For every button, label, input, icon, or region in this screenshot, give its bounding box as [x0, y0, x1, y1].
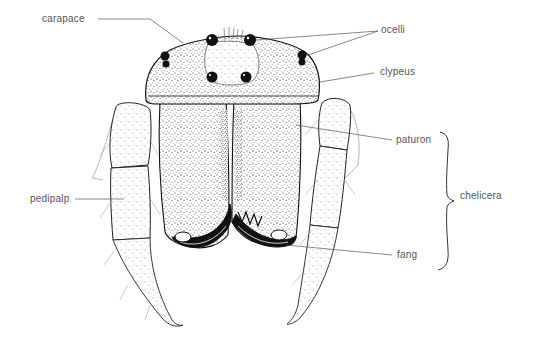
label-ocelli: ocelli [381, 24, 405, 36]
chelicera-brace [438, 132, 454, 270]
clypeus-leader [320, 73, 374, 82]
label-paturon: paturon [396, 134, 431, 146]
carapace-leader [98, 19, 183, 43]
ocelli-leader-2 [308, 31, 378, 55]
chelicera-diagram: carapace ocelli clypeus paturon chelicer… [0, 0, 539, 350]
ocelli-leader-1 [256, 31, 378, 40]
label-pedipalp: pedipalp [30, 193, 69, 205]
spider-head-illustration [0, 0, 539, 350]
label-carapace: carapace [42, 13, 85, 25]
label-fang: fang [397, 249, 417, 261]
fang-leader [286, 245, 392, 255]
chelicerae [159, 100, 301, 248]
label-clypeus: clypeus [380, 66, 415, 78]
label-chelicera: chelicera [460, 190, 502, 202]
carapace-shape [146, 27, 320, 104]
